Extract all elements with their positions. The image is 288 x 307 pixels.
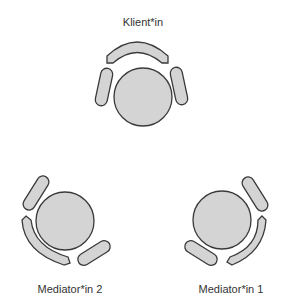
seating-diagram [0, 0, 288, 307]
label-klient: Klient*in [123, 16, 163, 29]
backrest [107, 42, 168, 63]
chair-klient [94, 42, 189, 126]
seat [36, 192, 94, 250]
label-mediator2: Mediator*in 2 [38, 283, 103, 296]
chair-mediator1 [183, 175, 271, 268]
seat [193, 191, 251, 249]
label-mediator1: Mediator*in 1 [199, 283, 264, 296]
armrest-left [94, 67, 114, 107]
chair-mediator2 [21, 174, 113, 268]
seat [114, 68, 172, 126]
